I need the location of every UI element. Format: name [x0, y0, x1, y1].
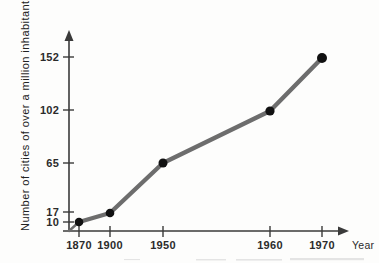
x-tick-label-1870: 1870	[66, 239, 92, 251]
y-tick-label-152: 152	[40, 51, 59, 63]
y-tick-label-65: 65	[46, 157, 59, 169]
data-point-1970	[317, 53, 327, 63]
scan-artifact	[124, 258, 364, 261]
y-axis-title: Number of cities of over a million inhab…	[19, 0, 31, 231]
x-tick-label-1950: 1950	[150, 239, 176, 251]
data-point-1870	[75, 218, 84, 227]
data-point-1900	[106, 209, 115, 218]
y-axis-arrow-icon	[65, 30, 74, 41]
x-axis-title: Year	[352, 239, 375, 251]
x-axis-arrow-icon	[338, 227, 349, 236]
x-tick-label-1900: 1900	[97, 239, 123, 251]
data-point-1950	[159, 159, 168, 168]
y-axis	[65, 30, 74, 231]
chart-canvas: Number of cities of over a million inhab…	[0, 0, 379, 263]
x-tick-label-1960: 1960	[257, 239, 283, 251]
x-tick-label-1970: 1970	[309, 239, 335, 251]
data-point-1960	[265, 106, 274, 115]
y-tick-label-102: 102	[40, 104, 59, 116]
y-tick-label-10: 10	[46, 216, 59, 228]
data-series-line	[79, 58, 322, 222]
x-axis	[63, 227, 349, 236]
line-chart-figure: Number of cities of over a million inhab…	[0, 0, 379, 263]
